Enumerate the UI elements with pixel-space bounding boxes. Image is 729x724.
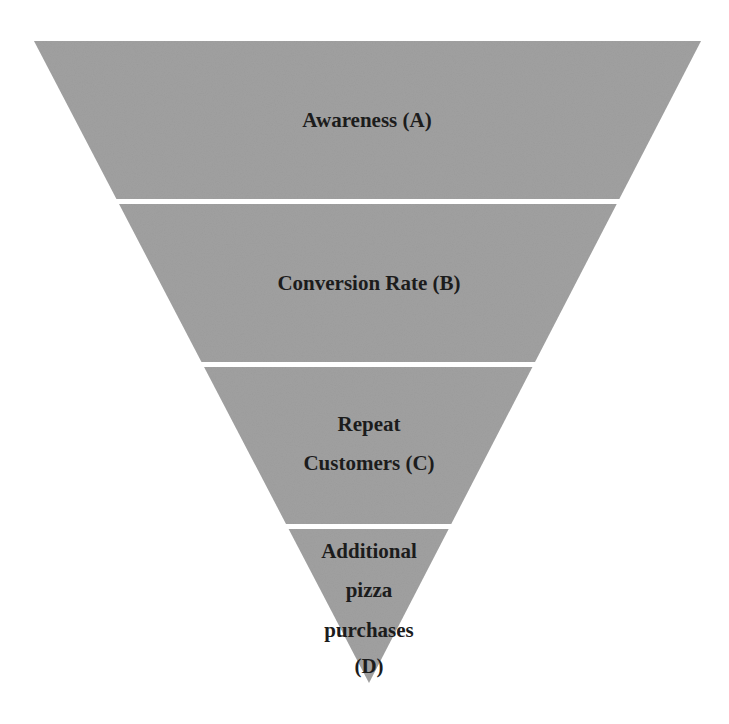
funnel-diagram: Awareness (A) Conversion Rate (B) Repeat… (0, 0, 729, 724)
funnel-svg: Awareness (A) Conversion Rate (B) Repeat… (0, 0, 729, 724)
stage-c-label-line1: Repeat (338, 412, 401, 436)
stage-d-label-line3: purchases (324, 618, 413, 642)
funnel-divider-2 (0, 362, 729, 367)
stage-b-label: Conversion Rate (B) (277, 271, 460, 295)
funnel-divider-1 (0, 199, 729, 204)
stage-c-label-line2: Customers (C) (303, 451, 434, 475)
stage-d-label-line2: pizza (346, 578, 393, 602)
stage-a-label: Awareness (A) (302, 108, 431, 132)
stage-d-label-line4: (D) (354, 654, 383, 678)
stage-d-label-line1: Additional (321, 539, 417, 563)
funnel-divider-3 (0, 524, 729, 529)
